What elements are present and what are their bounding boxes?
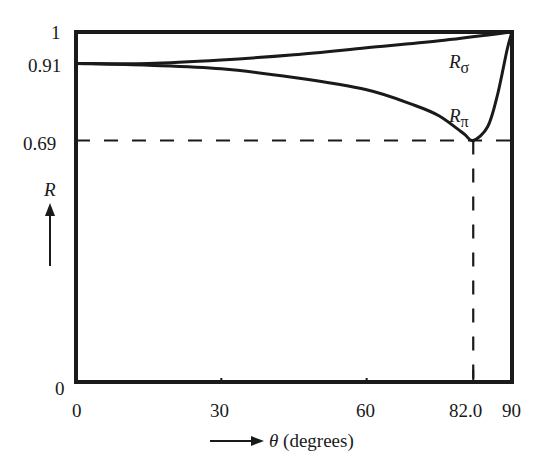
rpi-sub: π	[461, 113, 469, 130]
y-tick-0.69: 0.69	[23, 134, 56, 153]
x-tick-30: 30	[210, 401, 229, 420]
x-tick-90: 90	[502, 401, 521, 420]
plot-frame	[76, 32, 512, 382]
x-tick-60: 60	[356, 401, 375, 420]
rpi-main: R	[449, 105, 461, 126]
reference-dashed-lines	[76, 141, 512, 383]
x-axis-label: θ (degrees)	[269, 431, 354, 450]
x-arrow-head-icon	[251, 436, 264, 446]
rpi-curve	[76, 32, 512, 141]
x-tick-0: 0	[72, 401, 82, 420]
rsigma-sub: σ	[461, 59, 470, 76]
rsigma-label: Rσ	[449, 52, 469, 76]
rsigma-curve	[76, 32, 512, 64]
rpi-label: Rπ	[449, 106, 469, 130]
y-tick-0.91: 0.91	[28, 56, 61, 75]
x-tick-82: 82.0	[449, 401, 482, 420]
x-axis-theta: θ	[269, 430, 278, 451]
y-arrow-head-icon	[45, 203, 55, 216]
rsigma-main: R	[449, 51, 461, 72]
y-tick-1: 1	[51, 23, 61, 42]
y-axis-label: R	[44, 180, 56, 199]
x-axis-unit: (degrees)	[278, 430, 353, 451]
y-tick-0: 0	[55, 379, 65, 398]
curves	[76, 32, 512, 141]
